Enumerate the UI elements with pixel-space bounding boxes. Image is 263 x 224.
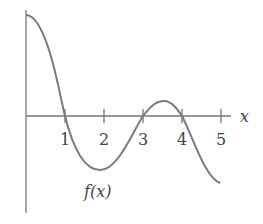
function-graph: 12345 x f(x) <box>0 0 263 224</box>
x-axis-label: x <box>240 107 249 126</box>
x-tick-label: 1 <box>60 130 70 149</box>
x-tick-label: 5 <box>216 130 226 149</box>
x-tick-label: 2 <box>99 130 109 149</box>
function-curve <box>26 15 220 183</box>
x-tick-label: 3 <box>138 130 148 149</box>
x-tick-label: 4 <box>177 130 187 149</box>
x-axis-tick-labels: 12345 <box>60 130 226 149</box>
curve-label: f(x) <box>83 182 111 201</box>
